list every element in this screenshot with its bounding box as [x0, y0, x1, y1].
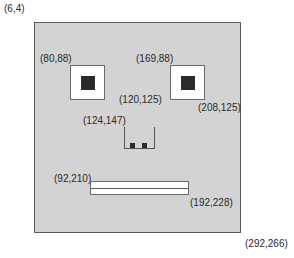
nose-left-line — [124, 127, 125, 149]
label-right-eye-top-left: (169,88) — [136, 53, 173, 64]
right-nostril — [142, 143, 147, 148]
mouth-center-line — [91, 188, 188, 189]
label-face-bottom-right: (292,266) — [245, 238, 288, 249]
right-eye — [170, 65, 205, 100]
mouth — [90, 181, 189, 195]
left-eye — [70, 65, 105, 100]
nose-right-line — [154, 127, 155, 149]
label-left-eye-top-left: (80,88) — [40, 53, 72, 64]
label-mouth-top-left: (92,210) — [54, 173, 91, 184]
right-pupil — [181, 76, 195, 90]
label-nose-top-left: (124,147) — [83, 115, 126, 126]
left-nostril — [130, 143, 135, 148]
label-right-eye-bottom-right: (208,125) — [198, 102, 241, 113]
label-left-eye-bottom-right: (120,125) — [119, 94, 162, 105]
nose-bottom-line — [124, 148, 155, 149]
label-face-top-left: (6,4) — [4, 3, 25, 14]
left-pupil — [81, 76, 95, 90]
label-mouth-bottom-right: (192,228) — [190, 197, 233, 208]
